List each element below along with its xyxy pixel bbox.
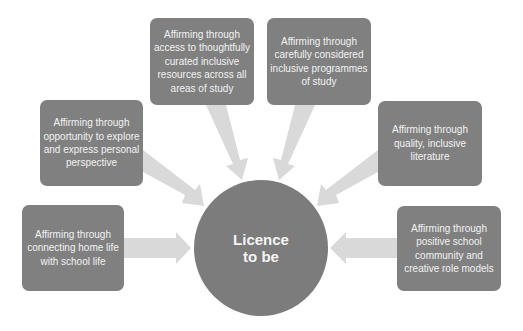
spoke-box-inclusive-literature: Affirming through quality, inclusive lit… [378,101,482,186]
arrow-curated-resources [206,105,248,180]
spoke-box-role-models: Affirming through positive school commun… [397,206,501,291]
arrow-home-life [124,232,191,264]
hub-circle-licence-to-be: Licence to be [194,180,328,316]
spoke-box-curated-resources: Affirming through access to thoughtfully… [150,18,254,105]
arrow-personal-perspective [143,150,204,206]
spoke-box-programmes-of-study: Affirming through carefully considered i… [267,18,371,105]
spoke-box-home-life: Affirming through connecting home life w… [22,205,124,291]
arrow-inclusive-literature [317,150,378,206]
arrow-role-models [330,232,397,264]
arrow-programmes-of-study [273,105,315,180]
spoke-box-personal-perspective: Affirming through opportunity to explore… [40,100,143,186]
